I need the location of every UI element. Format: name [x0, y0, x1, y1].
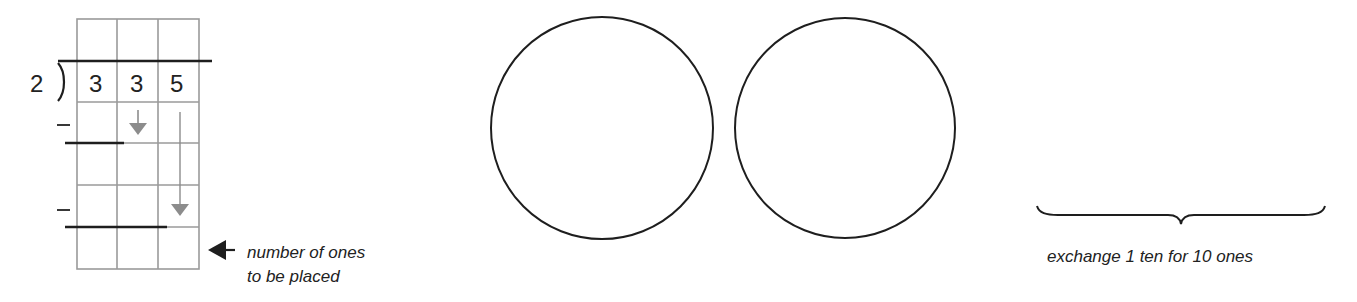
dividend-digit-ones: 5 [170, 70, 183, 97]
dividend-digit-hundreds: 3 [89, 70, 102, 97]
arrow-note-line-2: to be placed [247, 267, 340, 286]
curly-brace-icon [1037, 206, 1325, 224]
dividend-digit-tens: 3 [130, 70, 143, 97]
bring-down-arrow-tens-icon [129, 110, 147, 135]
brace-label: exchange 1 ten for 10 ones [1047, 247, 1254, 266]
divisor: 2 [30, 70, 43, 97]
division-bracket [58, 63, 64, 101]
grouping-circle-1 [491, 17, 713, 239]
arrow-note-line-1: number of ones [247, 243, 366, 262]
bring-down-arrow-ones-icon [171, 112, 189, 216]
pointer-arrow-left-icon [208, 240, 235, 260]
grouping-circle-2 [735, 18, 955, 238]
long-division-worksheet: 2 3 3 5 number of ones to be placed exch… [0, 0, 1357, 302]
